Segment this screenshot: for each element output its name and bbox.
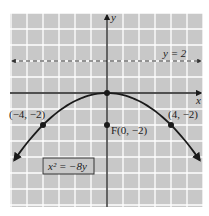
left-point [40, 122, 46, 128]
parabola-graph: y = 2 x y (−4, −2) (4, −2) F(0, −2) x² =… [0, 0, 209, 216]
focus-point [104, 122, 110, 128]
left-point-label: (−4, −2) [9, 108, 46, 121]
right-point-label: (4, −2) [168, 108, 198, 121]
focus-label: F(0, −2) [111, 124, 147, 137]
right-point [168, 122, 174, 128]
x-axis-label: x [195, 94, 201, 106]
directrix-label: y = 2 [162, 47, 187, 59]
y-axis-label: y [110, 11, 116, 23]
equation-label: x² = −8y [47, 160, 87, 172]
vertex-point [104, 90, 110, 96]
